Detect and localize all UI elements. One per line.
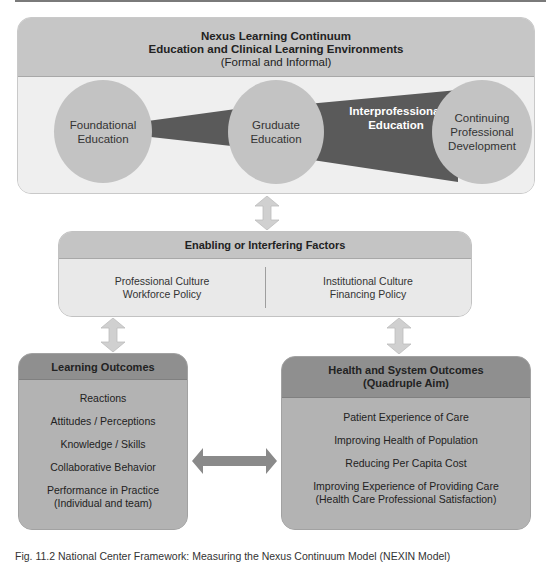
factors-body: Professional Culture Workforce Policy In… — [59, 259, 471, 316]
health-outcomes-list: Patient Experience of Care Improving Hea… — [282, 411, 530, 506]
continuum-header: Nexus Learning Continuum Education and C… — [18, 18, 534, 77]
health-outcomes-header: Health and System Outcomes (Quadruple Ai… — [282, 357, 530, 398]
stage-foundational-education: Foundational Education — [54, 80, 152, 183]
list-item: Reducing Per Capita Cost — [282, 457, 530, 470]
stage-label: Education — [250, 132, 301, 146]
learning-outcomes-header: Learning Outcomes — [19, 354, 187, 380]
nexus-learning-continuum-box: Nexus Learning Continuum Education and C… — [17, 17, 535, 194]
list-item: Improving Health of Population — [282, 434, 530, 447]
enabling-interfering-factors-box: Enabling or Interfering Factors Professi… — [58, 231, 472, 317]
list-item: Collaborative Behavior — [19, 461, 187, 474]
double-arrow-vertical-icon — [100, 318, 126, 352]
learning-outcomes-box: Learning Outcomes Reactions Attitudes / … — [18, 353, 188, 530]
learning-outcomes-body: Reactions Attitudes / Perceptions Knowle… — [19, 380, 187, 529]
list-item: Knowledge / Skills — [19, 438, 187, 451]
health-outcomes-body: Patient Experience of Care Improving Hea… — [282, 398, 530, 529]
list-item: Improving Experience of Providing Care (… — [282, 480, 530, 506]
stage-label: Professional — [448, 125, 516, 139]
factor-label: Financing Policy — [323, 288, 413, 301]
stage-label: Foundational — [70, 118, 137, 132]
factors-left-column: Professional Culture Workforce Policy — [59, 259, 265, 316]
list-item-line: Performance in Practice — [19, 484, 187, 497]
list-item: Reactions — [19, 392, 187, 405]
factors-header: Enabling or Interfering Factors — [59, 232, 471, 259]
stage-label: Education — [70, 132, 137, 146]
figure-caption: Fig. 11.2 National Center Framework: Mea… — [15, 550, 450, 562]
factor-label: Institutional Culture — [323, 275, 413, 288]
stage-label: Continuing — [448, 111, 516, 125]
continuum-subtitle: (Formal and Informal) — [18, 56, 534, 69]
stage-label: Development — [448, 139, 516, 153]
health-outcomes-title: Health and System Outcomes — [282, 364, 530, 377]
list-item: Performance in Practice (Individual and … — [19, 484, 187, 510]
double-arrow-vertical-icon — [254, 196, 280, 230]
list-item: Attitudes / Perceptions — [19, 415, 187, 428]
health-outcomes-subtitle: (Quadruple Aim) — [282, 377, 530, 390]
stage-continuing-professional-development: Continuing Professional Development — [432, 80, 532, 184]
health-system-outcomes-box: Health and System Outcomes (Quadruple Ai… — [281, 356, 531, 530]
list-item-line: Improving Experience of Providing Care — [282, 480, 530, 493]
factor-label: Professional Culture — [115, 275, 210, 288]
double-arrow-horizontal-icon — [192, 448, 277, 474]
continuum-body: Foundational Education Gruduate Educatio… — [18, 77, 534, 193]
factor-label: Workforce Policy — [115, 288, 210, 301]
list-item-line: (Individual and team) — [19, 497, 187, 510]
stage-label: Gruduate — [250, 118, 301, 132]
list-item: Patient Experience of Care — [282, 411, 530, 424]
stage-graduate-education: Gruduate Education — [228, 80, 324, 184]
continuum-title: Nexus Learning Continuum — [201, 30, 351, 42]
list-item-line: (Health Care Professional Satisfaction) — [282, 493, 530, 506]
double-arrow-vertical-icon — [386, 318, 412, 354]
continuum-title-line2: Education and Clinical Learning Environm… — [149, 43, 404, 55]
top-rule — [15, 0, 546, 2]
learning-outcomes-list: Reactions Attitudes / Perceptions Knowle… — [19, 392, 187, 510]
factors-right-column: Institutional Culture Financing Policy — [265, 259, 471, 316]
